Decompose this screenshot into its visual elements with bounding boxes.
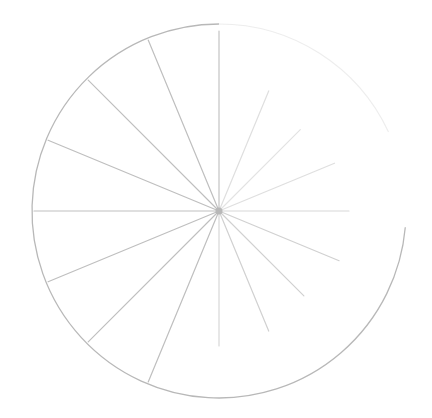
spoke-line: [48, 140, 219, 211]
spoke-line: [148, 211, 219, 382]
circle-arc-faded: [219, 24, 389, 132]
spoke-line: [88, 80, 219, 211]
spoke-wheel-diagram: [0, 0, 432, 418]
spoke-line: [148, 40, 219, 211]
spoke-line: [219, 211, 304, 296]
spoke-line: [219, 130, 300, 211]
diagram-canvas: [0, 0, 432, 418]
spoke-line: [88, 211, 219, 342]
center-hub: [216, 208, 223, 215]
spoke-line: [48, 211, 219, 282]
